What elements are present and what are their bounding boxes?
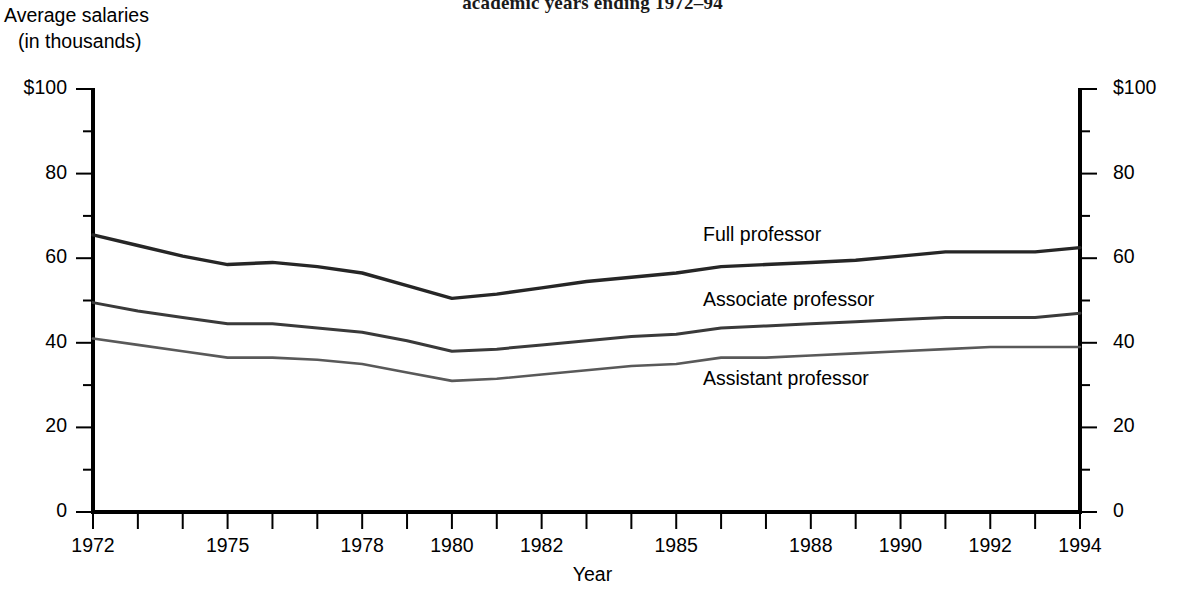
series-line-full [93,235,1080,298]
series-line-assistant [93,339,1080,381]
plot-area [0,0,1185,597]
series-line-associate [93,303,1080,352]
chart-figure: academic years ending 1972–94 Average sa… [0,0,1185,597]
